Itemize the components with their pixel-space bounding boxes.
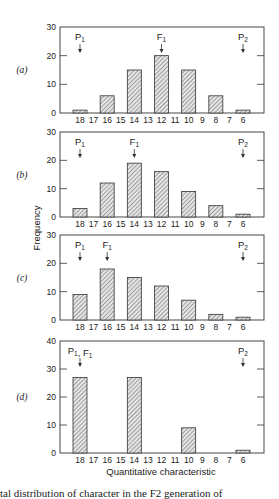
panel-d: 0102030401817161514131211109876P1, F1P2(… [16, 336, 264, 465]
bar [182, 70, 196, 113]
y-tick-label: 30 [47, 230, 57, 240]
y-tick-label: 30 [47, 364, 57, 374]
marker-label: F1 [157, 31, 167, 43]
panel-label: (c) [17, 273, 28, 284]
y-tick-label: 10 [47, 184, 57, 194]
x-tick-label: 17 [89, 455, 99, 465]
x-tick-label: 18 [75, 115, 85, 125]
x-tick-label: 12 [157, 322, 167, 332]
x-tick-label: 11 [171, 455, 180, 465]
x-tick-label: 14 [130, 322, 140, 332]
x-tick-label: 16 [102, 455, 112, 465]
bar [155, 286, 169, 320]
bar [236, 214, 250, 217]
y-tick-label: 20 [47, 155, 57, 165]
y-tick-label: 30 [47, 127, 57, 137]
x-tick-label: 8 [213, 219, 218, 229]
x-tick-label: 12 [157, 219, 167, 229]
bar [100, 183, 114, 217]
marker-label: P1 [75, 239, 85, 251]
y-axis-label: Frequency [31, 205, 42, 250]
x-tick-label: 10 [184, 455, 194, 465]
y-tick-label: 10 [47, 79, 57, 89]
x-tick-label: 7 [227, 219, 232, 229]
x-axis-label: Quantitative characteristic [106, 466, 216, 477]
x-tick-label: 18 [75, 219, 85, 229]
x-tick-label: 14 [130, 219, 140, 229]
bar [236, 110, 250, 113]
panel-a: 01020301817161514131211109876P1F1P2(a) [16, 22, 264, 125]
y-tick-label: 0 [51, 315, 56, 325]
bar [209, 314, 223, 320]
marker-label: P2 [238, 345, 248, 357]
bar [127, 377, 141, 453]
marker-label: P2 [238, 136, 248, 148]
x-tick-label: 13 [143, 219, 153, 229]
x-tick-label: 16 [102, 219, 112, 229]
y-tick-label: 20 [47, 392, 57, 402]
y-tick-label: 30 [47, 22, 57, 32]
x-tick-label: 12 [157, 115, 167, 125]
x-tick-label: 7 [227, 115, 232, 125]
x-tick-label: 18 [75, 322, 85, 332]
marker-label: P2 [238, 31, 248, 43]
x-tick-label: 16 [102, 322, 112, 332]
bar [127, 70, 141, 113]
y-tick-label: 10 [47, 287, 57, 297]
bar [209, 96, 223, 113]
bar [155, 56, 169, 113]
marker-label: P1, F1 [68, 345, 93, 359]
y-tick-label: 40 [47, 336, 57, 346]
x-tick-label: 9 [200, 455, 205, 465]
bar [236, 450, 250, 453]
bar [182, 192, 196, 218]
bar [100, 269, 114, 320]
bar [182, 428, 196, 453]
x-tick-label: 11 [171, 322, 180, 332]
x-tick-label: 13 [143, 115, 153, 125]
x-tick-label: 10 [184, 322, 194, 332]
x-tick-label: 10 [184, 219, 194, 229]
x-tick-label: 8 [213, 322, 218, 332]
bar [209, 206, 223, 217]
bar [100, 96, 114, 113]
marker-label: P1 [75, 136, 85, 148]
x-tick-label: 17 [89, 322, 99, 332]
y-tick-label: 0 [51, 108, 56, 118]
y-tick-label: 20 [47, 258, 57, 268]
bar [73, 110, 87, 113]
bar [236, 317, 250, 320]
bar [127, 278, 141, 321]
marker-label: F1 [102, 239, 112, 251]
x-tick-label: 9 [200, 219, 205, 229]
x-tick-label: 11 [171, 115, 180, 125]
bar [127, 163, 141, 217]
y-tick-label: 20 [47, 51, 57, 61]
x-tick-label: 8 [213, 455, 218, 465]
x-tick-label: 13 [143, 455, 153, 465]
x-tick-label: 7 [227, 455, 232, 465]
panel-label: (a) [16, 65, 27, 76]
x-tick-label: 8 [213, 115, 218, 125]
bar [73, 377, 87, 453]
x-tick-label: 15 [116, 219, 126, 229]
x-tick-label: 10 [184, 115, 194, 125]
x-tick-label: 18 [75, 455, 85, 465]
x-tick-label: 15 [116, 455, 126, 465]
panel-label: (d) [16, 392, 27, 403]
x-tick-label: 6 [241, 322, 246, 332]
x-tick-label: 17 [89, 219, 99, 229]
marker-label: P1 [75, 31, 85, 43]
x-tick-label: 14 [130, 115, 140, 125]
bar [73, 295, 87, 321]
y-tick-label: 0 [51, 448, 56, 458]
x-tick-label: 9 [200, 322, 205, 332]
x-tick-label: 6 [241, 455, 246, 465]
x-tick-label: 7 [227, 322, 232, 332]
x-tick-label: 6 [241, 115, 246, 125]
y-tick-label: 10 [47, 420, 57, 430]
x-tick-label: 13 [143, 322, 153, 332]
bar [73, 209, 87, 218]
x-tick-label: 9 [200, 115, 205, 125]
